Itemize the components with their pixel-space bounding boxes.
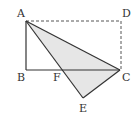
geometry-figure: A D B F C E <box>0 0 136 118</box>
label-c: C <box>122 71 130 84</box>
label-b: B <box>17 71 25 84</box>
label-a: A <box>16 7 26 20</box>
label-d: D <box>122 7 131 20</box>
label-e: E <box>79 102 87 115</box>
label-f: F <box>53 71 61 84</box>
shaded-triangle-ace <box>26 21 120 98</box>
